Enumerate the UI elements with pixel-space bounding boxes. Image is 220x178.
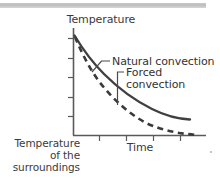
ambient-line-2: of the	[50, 149, 80, 161]
ambient-line-1: Temperature	[15, 137, 80, 149]
ambient-temperature-note: Temperatureof thesurroundings	[2, 137, 80, 173]
x-axis-title: Time	[110, 142, 170, 153]
ambient-line-3: surroundings	[13, 161, 80, 173]
y-axis-title: Temperature	[56, 14, 146, 25]
y-axis-ticks	[68, 39, 73, 117]
forced-label-line-2: convection	[126, 78, 185, 91]
convection-cooling-figure: Temperature Time Natural convection Forc…	[0, 0, 220, 178]
series-label-forced-convection: Forcedconvection	[126, 67, 185, 91]
corner-speck-mark	[210, 151, 212, 153]
